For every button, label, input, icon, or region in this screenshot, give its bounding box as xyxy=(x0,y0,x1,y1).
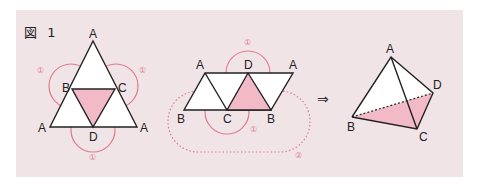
figure-diagram: A B C A D A ① ① ① A D A B C B ① ① ② ⇒ xyxy=(0,0,480,187)
tetra-label-d: D xyxy=(433,78,442,92)
strip-label-b-right: B xyxy=(267,112,275,126)
strip-label-a-left: A xyxy=(196,58,204,72)
triangle-net: A B C A D A ① ① ① xyxy=(37,27,148,162)
strip-fold-mark-1-top: ① xyxy=(244,38,251,47)
tetra-label-a: A xyxy=(386,42,394,56)
fold-mark-1-right: ① xyxy=(139,66,146,75)
fold-mark-1-left: ① xyxy=(37,66,44,75)
vertex-label-b: B xyxy=(62,81,70,95)
implies-arrow: ⇒ xyxy=(317,91,329,107)
tetra-label-c: C xyxy=(419,130,428,144)
tetra-label-b: B xyxy=(347,120,355,134)
strip-fold-mark-1-bottom: ① xyxy=(250,125,257,134)
vertex-label-a-right: A xyxy=(140,121,148,135)
vertex-label-a-top: A xyxy=(89,27,97,41)
strip-label-a-right: A xyxy=(289,58,297,72)
vertex-label-a-left: A xyxy=(38,121,46,135)
strip-join-mark-2: ② xyxy=(295,151,302,160)
tetrahedron: A B D C xyxy=(347,42,442,144)
strip-label-b-left: B xyxy=(177,112,185,126)
fold-mark-1-bottom: ① xyxy=(89,153,96,162)
vertex-label-d: D xyxy=(89,130,98,144)
vertex-label-c: C xyxy=(118,81,127,95)
strip-label-d: D xyxy=(244,58,253,72)
strip-label-c: C xyxy=(223,112,232,126)
strip-net: A D A B C B ① ① ② xyxy=(168,38,310,160)
